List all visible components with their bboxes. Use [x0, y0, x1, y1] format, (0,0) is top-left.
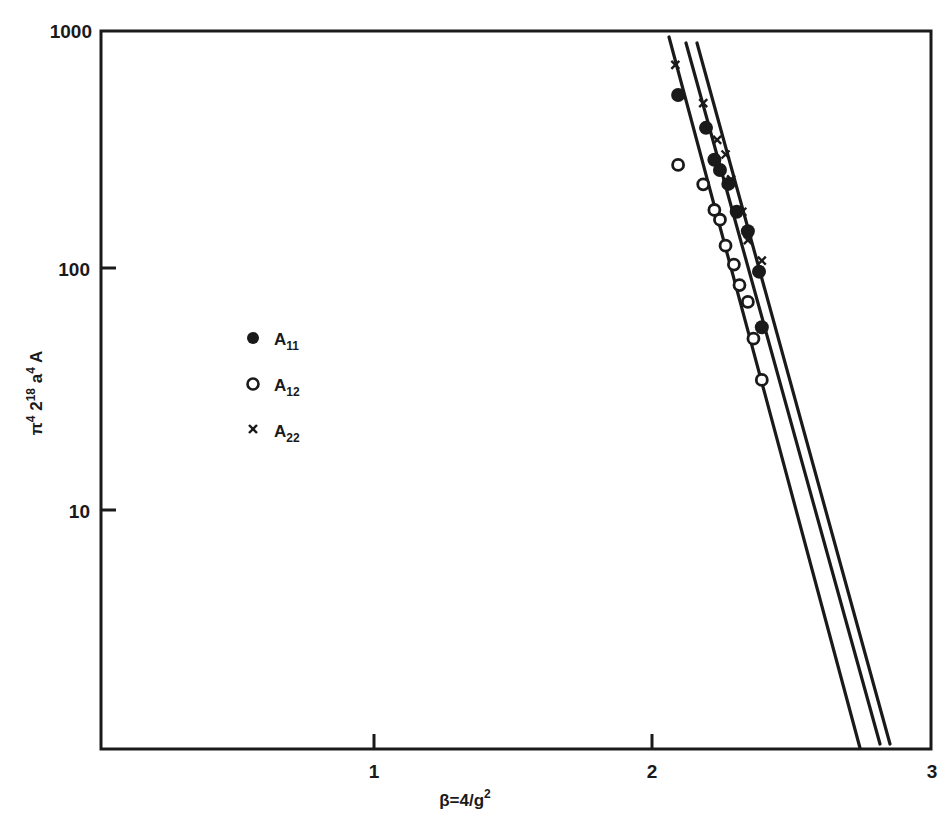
fit-lines	[669, 37, 890, 748]
point-a12	[698, 179, 709, 190]
y-tick-label-10: 10	[69, 501, 90, 522]
x-tick-label-1: 1	[369, 761, 380, 782]
x-axis-label: β=4/g2	[439, 787, 491, 810]
x-axis-label-main: β=4/g	[439, 791, 484, 810]
point-a11	[713, 163, 727, 177]
point-a22	[758, 257, 766, 265]
x-tick-label-3: 3	[927, 761, 938, 782]
point-a11	[741, 224, 755, 238]
point-a12	[742, 296, 753, 307]
data-points	[671, 61, 769, 386]
point-a12	[714, 214, 725, 225]
plot-frame	[101, 31, 931, 749]
legend-item-a22: A22	[249, 422, 300, 445]
fit-line-a11	[686, 43, 880, 744]
legend-item-a12: A12	[248, 376, 300, 399]
point-a12	[728, 259, 739, 270]
filled-circle-icon	[247, 332, 259, 344]
point-a11	[755, 320, 769, 334]
point-a12	[673, 159, 684, 170]
x-axis: 1 2 3	[369, 734, 938, 782]
point-a11	[699, 121, 713, 135]
cross-icon	[249, 425, 257, 433]
legend: A11 A12 A22	[247, 330, 300, 445]
point-a12	[734, 280, 745, 291]
legend-label-a12: A12	[274, 376, 300, 399]
point-a11	[671, 88, 685, 102]
legend-item-a11: A11	[247, 330, 299, 353]
point-a11	[752, 265, 766, 279]
fit-line-a22	[697, 43, 890, 744]
y-label-two: 2	[27, 401, 46, 415]
x-tick-label-2: 2	[647, 761, 658, 782]
legend-label-a22: A22	[274, 422, 300, 445]
point-a12	[720, 240, 731, 251]
point-a12	[756, 374, 767, 385]
y-label-a: a	[27, 373, 46, 388]
open-circle-icon	[248, 379, 259, 390]
y-axis-label: π4 218 a4 A	[24, 351, 46, 436]
legend-label-a11: A11	[274, 330, 299, 353]
y-label-pi: π	[27, 422, 46, 435]
y-label-A: A	[27, 351, 46, 367]
fit-line-a12	[669, 37, 860, 748]
y-axis: 1000 100 10	[50, 21, 116, 522]
x-axis-label-sup: 2	[484, 787, 491, 801]
y-tick-label-100: 100	[58, 259, 90, 280]
y-label-two-exp: 18	[24, 388, 38, 402]
y-tick-label-1000: 1000	[50, 21, 92, 42]
point-a12	[748, 333, 759, 344]
chart: 1000 100 10 1 2 3 β=4/g2 π4 218 a4 A A11…	[0, 0, 950, 821]
